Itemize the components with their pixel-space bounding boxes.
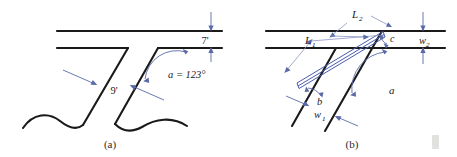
panel-b-label-L1-sub: 1 — [312, 41, 316, 49]
panel-a-dim-7 — [208, 12, 213, 62]
panel-b-label-angle-a: a — [389, 84, 395, 96]
scan-artifact — [432, 135, 439, 149]
panel-a-caption: (a) — [104, 138, 117, 151]
panel-a-wave-left — [23, 115, 83, 128]
panel-b-angle-c-arc — [380, 34, 389, 48]
panel-b-label-angle-c: c — [390, 33, 395, 44]
panel-b-label-w2-sub: 2 — [426, 41, 430, 49]
panel-a-label-width-side: 9' — [110, 85, 117, 96]
panel-b-label-L2: L 2 — [351, 8, 363, 23]
panel-b-label-w1-text: w — [314, 109, 321, 120]
panel-b-label-w1: w 1 — [314, 109, 326, 123]
panel-b-diagonal-right — [325, 31, 382, 131]
panel-b-label-angle-b: b — [317, 96, 322, 107]
panel-b-label-L2-sub: 2 — [359, 15, 363, 23]
panel-a: 7' 9' a = 123° (a) — [23, 12, 222, 151]
panel-b-label-L1-text: L — [304, 34, 311, 46]
panel-b-label-L2-text: L — [351, 8, 358, 20]
panel-b: L 1 L 2 — [266, 8, 445, 151]
figure-svg: 7' 9' a = 123° (a) — [0, 0, 457, 157]
panel-b-label-w2: w 2 — [419, 35, 430, 49]
panel-b-label-w1-sub: 1 — [322, 115, 326, 123]
figure-container: 7' 9' a = 123° (a) — [0, 0, 457, 157]
panel-b-caption: (b) — [346, 138, 359, 151]
panel-b-label-w2-text: w — [419, 35, 426, 46]
panel-a-label-width-top: 7' — [201, 35, 208, 46]
panel-a-label-angle: a = 123° — [168, 69, 206, 80]
panel-a-wave-right — [115, 120, 187, 131]
